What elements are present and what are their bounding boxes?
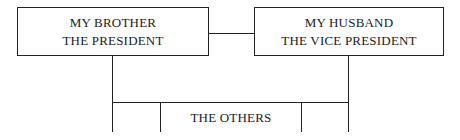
node-husband-line1: MY HUSBAND xyxy=(305,14,394,32)
node-husband-line2: THE VICE PRESIDENT xyxy=(281,32,417,50)
connector-brother-husband xyxy=(209,33,254,34)
others-divider-right xyxy=(301,102,302,132)
connector-brother-down xyxy=(112,56,113,132)
connector-others-horizontal xyxy=(112,102,349,103)
node-others-label: THE OTHERS xyxy=(161,110,301,126)
node-husband-vice-president: MY HUSBAND THE VICE PRESIDENT xyxy=(254,7,444,56)
node-brother-line2: THE PRESIDENT xyxy=(62,32,163,50)
node-brother-line1: MY BROTHER xyxy=(70,14,156,32)
connector-husband-down xyxy=(348,56,349,132)
node-brother-president: MY BROTHER THE PRESIDENT xyxy=(17,7,209,56)
